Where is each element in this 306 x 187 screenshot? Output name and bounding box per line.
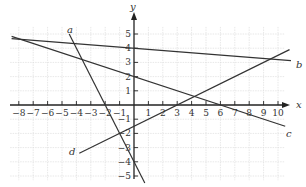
line-a-label: a: [67, 24, 73, 35]
x-tick-label: 8: [246, 108, 252, 118]
x-tick-label: 10: [272, 108, 284, 118]
x-axis-label: x: [296, 99, 302, 110]
y-tick-label: 5: [125, 29, 131, 39]
axes: x y: [10, 1, 302, 179]
y-tick-label: −4: [118, 157, 132, 167]
x-tick-label: −3: [84, 108, 98, 118]
x-tick-label: 5: [203, 108, 209, 118]
y-axis-label: y: [129, 1, 136, 12]
line-labels: a b c d: [67, 24, 302, 157]
x-tick-label: 3: [174, 108, 180, 118]
y-tick-label: 3: [125, 57, 131, 67]
line-d-label: d: [69, 146, 75, 157]
x-tick-label: 6: [218, 108, 224, 118]
x-tick-label: −6: [41, 108, 55, 118]
line-d: [79, 50, 289, 154]
y-tick-label: −5: [118, 171, 132, 181]
line-c-label: c: [286, 128, 292, 139]
x-tick-label: 4: [189, 108, 195, 118]
y-tick-label: 1: [125, 86, 131, 96]
x-tick-label: −4: [70, 108, 84, 118]
y-tick-label: 2: [125, 72, 131, 82]
x-tick-label: −5: [55, 108, 69, 118]
y-tick-label: −1: [118, 114, 131, 124]
x-tick-label: 9: [261, 108, 267, 118]
x-tick-label: −7: [27, 108, 41, 118]
x-tick-label: −8: [12, 108, 26, 118]
line-b-label: b: [296, 59, 302, 70]
y-axis-arrow-icon: [131, 12, 137, 20]
x-tick-label: 1: [146, 108, 152, 118]
coordinate-plane-chart: x y −8−7−6−5−4−3−2−112345678910−5−4−3−2−…: [0, 0, 306, 187]
